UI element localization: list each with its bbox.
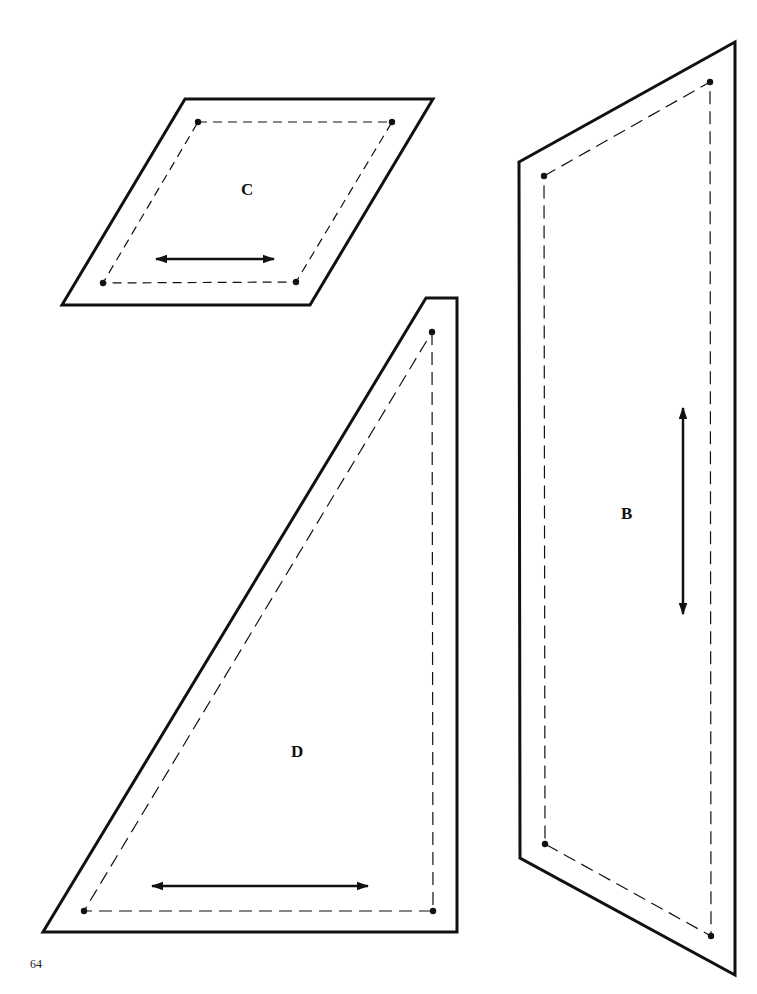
piece-c-seam-dots <box>100 119 395 286</box>
pattern-sheet <box>0 0 757 994</box>
pattern-piece-c <box>62 99 433 305</box>
piece-c-label: C <box>241 180 253 200</box>
piece-d-seam-line <box>84 332 433 911</box>
pattern-piece-d <box>43 298 457 932</box>
page-number: 64 <box>30 957 42 972</box>
piece-d-label: D <box>291 742 303 762</box>
piece-c-cut-line <box>62 99 433 305</box>
piece-b-label: B <box>621 504 632 524</box>
